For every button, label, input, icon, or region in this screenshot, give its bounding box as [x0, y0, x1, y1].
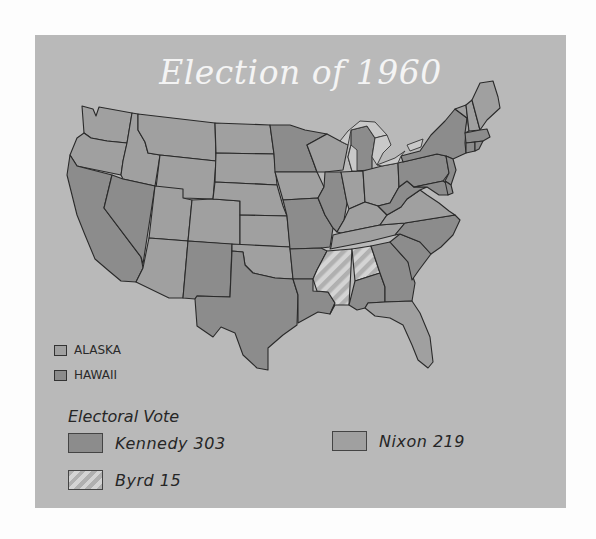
legend-hawaii: HAWAII	[54, 368, 117, 382]
states-group	[67, 81, 500, 370]
lake-michigan	[348, 145, 357, 171]
state-new-mexico	[183, 241, 232, 299]
state-south-dakota	[215, 153, 277, 185]
state-north-dakota	[215, 123, 274, 154]
state-colorado	[188, 199, 240, 245]
state-new-york	[401, 109, 467, 162]
state-iowa	[275, 172, 324, 200]
hawaii-label: HAWAII	[74, 368, 117, 382]
state-florida	[365, 301, 433, 368]
alaska-label: ALASKA	[74, 343, 121, 357]
state-kansas	[240, 215, 290, 247]
byrd-swatch	[68, 470, 103, 490]
alaska-swatch	[54, 345, 67, 356]
byrd-label: Byrd 15	[115, 471, 181, 490]
nixon-label: Nixon 219	[379, 432, 465, 451]
state-connecticut	[466, 142, 475, 153]
legend-kennedy: Kennedy 303	[68, 433, 226, 453]
legend-byrd: Byrd 15	[68, 470, 181, 490]
kennedy-label: Kennedy 303	[115, 434, 226, 453]
state-rhode-island	[475, 141, 483, 151]
kennedy-swatch	[68, 433, 103, 453]
map-panel: Election of 1960	[35, 35, 566, 508]
legend-alaska: ALASKA	[54, 343, 121, 357]
nixon-swatch	[332, 431, 367, 451]
legend-title: Electoral Vote	[68, 407, 179, 426]
hawaii-swatch	[54, 370, 67, 381]
legend-nixon: Nixon 219	[332, 431, 465, 451]
